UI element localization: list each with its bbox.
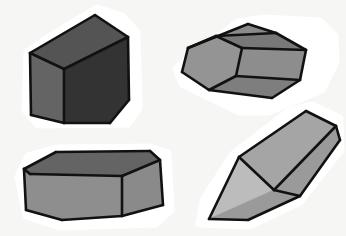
cube-top-left-edge-2 bbox=[128, 37, 129, 100]
box-bottom-left-edge-1 bbox=[56, 151, 150, 152]
solids-illustration bbox=[0, 0, 346, 236]
scene-canvas bbox=[0, 0, 346, 236]
box-bottom-left[interactable] bbox=[18, 147, 171, 227]
cube-top-left-edge-6 bbox=[30, 53, 31, 115]
hex-prism-top-right-prism-side-face bbox=[236, 48, 306, 80]
wedge-bottom-right-edge-5 bbox=[209, 219, 248, 220]
